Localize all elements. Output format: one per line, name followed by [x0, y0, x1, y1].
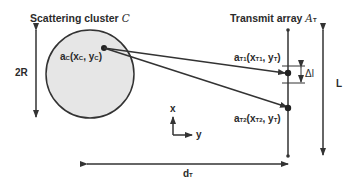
e2-sub1: T2	[255, 117, 262, 123]
cluster-coords-close: )	[99, 51, 102, 62]
e2-sub: T2	[240, 117, 247, 123]
distance-sub: T	[189, 172, 193, 178]
array-symbol: A	[305, 12, 313, 24]
array-element-2	[285, 105, 291, 111]
cluster-coords-mid: , y	[83, 51, 94, 62]
distance-label: dT	[183, 168, 193, 179]
length-label: L	[336, 78, 342, 89]
diagram-graphics	[0, 0, 355, 188]
e1-sub: T1	[240, 56, 247, 62]
cluster-symbol: C	[122, 12, 130, 24]
x-axis-label: x	[170, 103, 176, 114]
spacing-label: Δl	[305, 68, 314, 79]
cluster-title: Scattering cluster C	[30, 12, 130, 24]
e2-close: )	[277, 113, 280, 124]
element2-label: aT2(xT2, yT)	[234, 113, 281, 124]
scattering-cluster-circle	[46, 30, 134, 118]
y-axis-label: y	[196, 129, 202, 140]
e1-mid: , y	[263, 52, 274, 63]
e2-mid: , y	[263, 113, 274, 124]
diameter-label: 2R	[15, 67, 28, 78]
e1-close: )	[277, 52, 280, 63]
element1-label: aT1(xT1, yT)	[234, 52, 281, 63]
diagram-canvas: Scattering cluster C 2R aC(xC, yC) Trans…	[0, 0, 355, 188]
array-title: Transmit array AT	[230, 12, 317, 24]
cluster-coords-open: (x	[70, 51, 79, 62]
array-symbol-sub: T	[313, 17, 317, 23]
e1-sub1: T1	[255, 56, 262, 62]
array-title-text: Transmit array	[230, 12, 302, 24]
cluster-point-label: aC(xC, yC)	[60, 51, 102, 62]
array-element-1	[285, 70, 291, 76]
cluster-title-text: Scattering cluster	[30, 12, 119, 24]
